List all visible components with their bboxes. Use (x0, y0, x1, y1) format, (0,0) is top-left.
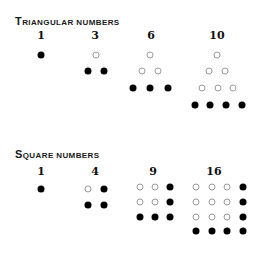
filled-dot-icon (38, 52, 45, 59)
open-dot-icon (193, 214, 200, 221)
open-dot-icon (222, 68, 229, 75)
open-dot-icon (152, 199, 159, 206)
filled-dot-icon (167, 184, 174, 191)
filled-dot-icon (239, 102, 246, 109)
filled-dot-icon (209, 228, 216, 235)
open-dot-icon (215, 85, 222, 92)
open-dot-icon (199, 85, 206, 92)
open-dot-icon (193, 199, 200, 206)
filled-dot-icon (167, 214, 174, 221)
number-label: 3 (91, 29, 99, 42)
open-dot-icon (224, 184, 231, 191)
open-dot-icon (209, 184, 216, 191)
open-dot-icon (214, 52, 221, 59)
filled-dot-icon (38, 186, 45, 193)
filled-dot-icon (240, 184, 247, 191)
filled-dot-icon (152, 214, 159, 221)
filled-dot-icon (85, 202, 92, 209)
section-title: Square numbers (15, 148, 100, 160)
filled-dot-icon (101, 202, 108, 209)
filled-dot-icon (240, 199, 247, 206)
open-dot-icon (139, 68, 146, 75)
title-rest: quare numbers (23, 151, 100, 160)
filled-dot-icon (85, 68, 92, 75)
title-initial: S (15, 148, 23, 160)
open-dot-icon (209, 199, 216, 206)
number-label: 10 (209, 29, 224, 42)
filled-dot-icon (192, 102, 199, 109)
filled-dot-icon (167, 199, 174, 206)
open-dot-icon (137, 184, 144, 191)
number-label: 16 (206, 165, 221, 178)
section-title: Triangular numbers (15, 15, 120, 27)
filled-dot-icon (101, 186, 108, 193)
open-dot-icon (206, 68, 213, 75)
open-dot-icon (147, 52, 154, 59)
filled-dot-icon (165, 85, 172, 92)
open-dot-icon (224, 199, 231, 206)
open-dot-icon (209, 214, 216, 221)
number-label: 4 (91, 165, 99, 178)
filled-dot-icon (137, 214, 144, 221)
filled-dot-icon (224, 228, 231, 235)
filled-dot-icon (193, 228, 200, 235)
number-label: 1 (37, 165, 45, 178)
open-dot-icon (224, 214, 231, 221)
open-dot-icon (230, 85, 237, 92)
open-dot-icon (137, 199, 144, 206)
filled-dot-icon (240, 228, 247, 235)
number-label: 9 (149, 165, 157, 178)
open-dot-icon (85, 186, 92, 193)
title-rest: riangular numbers (22, 18, 119, 27)
filled-dot-icon (240, 214, 247, 221)
filled-dot-icon (130, 85, 137, 92)
open-dot-icon (193, 184, 200, 191)
open-dot-icon (155, 68, 162, 75)
open-dot-icon (93, 52, 100, 59)
filled-dot-icon (101, 68, 108, 75)
filled-dot-icon (207, 102, 214, 109)
number-label: 6 (147, 29, 155, 42)
number-label: 1 (37, 29, 45, 42)
filled-dot-icon (223, 102, 230, 109)
filled-dot-icon (147, 85, 154, 92)
open-dot-icon (152, 184, 159, 191)
